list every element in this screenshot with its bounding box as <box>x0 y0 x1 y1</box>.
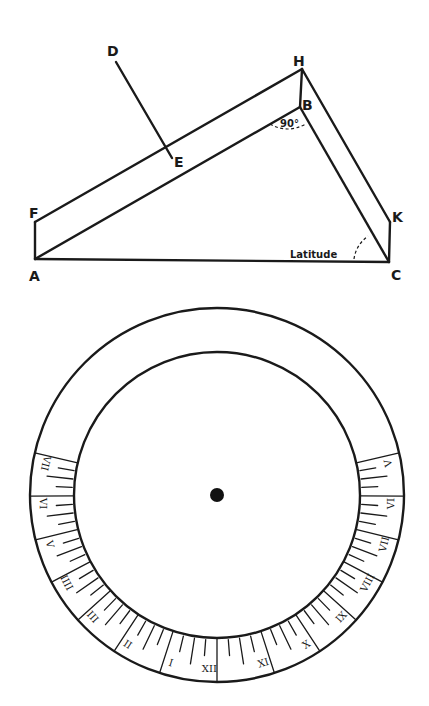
hour-line <box>35 529 78 540</box>
quarter-tick <box>362 504 378 505</box>
quarter-tick <box>63 538 78 543</box>
edge-b-c <box>300 107 389 262</box>
quarter-tick <box>79 570 93 578</box>
quarter-tick <box>360 521 376 524</box>
edge-f-h <box>35 69 302 222</box>
quarter-tick <box>349 555 364 562</box>
hour-label: VII <box>39 454 53 472</box>
edge-h-k <box>302 69 390 222</box>
line-d-e <box>116 62 172 158</box>
label-c: C <box>391 267 401 283</box>
hour-label: V <box>44 538 57 549</box>
quarter-tick <box>280 626 291 649</box>
quarter-tick <box>105 605 122 625</box>
hour-label: XI <box>256 656 270 670</box>
quarter-tick <box>341 570 355 578</box>
quarter-tick <box>57 547 81 556</box>
label-b: B <box>302 97 313 113</box>
quarter-tick <box>361 513 387 516</box>
hour-scale-ticks <box>30 453 404 682</box>
hour-label: IX <box>333 608 349 624</box>
quarter-tick <box>70 555 85 562</box>
label-latitude: Latitude <box>290 249 337 260</box>
quarter-tick <box>228 640 229 656</box>
hour-label: VI <box>38 497 49 509</box>
quarter-tick <box>336 578 357 593</box>
hour-label: V <box>382 458 395 469</box>
quarter-tick <box>362 487 378 488</box>
label-h: H <box>293 53 305 69</box>
quarter-tick <box>47 476 73 479</box>
hour-label: VIII <box>358 572 377 595</box>
quarter-tick <box>353 547 377 556</box>
quarter-tick <box>288 621 296 635</box>
quarter-tick <box>59 521 75 524</box>
quarter-tick <box>138 621 146 635</box>
quarter-tick <box>56 487 72 488</box>
quarter-tick <box>304 611 314 624</box>
edge-a-b <box>35 107 300 259</box>
quarter-tick <box>331 585 344 595</box>
quarter-tick <box>180 636 184 652</box>
quarter-tick <box>318 599 329 610</box>
gnomon-triangle: D E F A H B K C 90° Latitude <box>29 43 404 284</box>
quarter-tick <box>190 638 194 664</box>
hour-label: X <box>300 637 313 651</box>
quarter-tick <box>91 585 104 595</box>
hour-line <box>356 529 399 540</box>
quarter-tick <box>143 626 154 649</box>
quarter-tick <box>58 468 74 471</box>
hour-label: VI <box>385 498 396 510</box>
quarter-tick <box>271 630 277 645</box>
quarter-tick <box>360 468 376 471</box>
quarter-tick <box>204 640 205 656</box>
label-a: A <box>29 268 40 284</box>
quarter-tick <box>355 538 370 543</box>
quarter-tick <box>56 504 72 505</box>
quarter-tick <box>104 599 115 610</box>
quarter-tick <box>312 605 329 625</box>
hour-label: II <box>121 638 134 652</box>
latitude-arc <box>354 236 368 259</box>
quarter-tick <box>240 638 244 664</box>
quarter-tick <box>361 476 387 479</box>
quarter-tick <box>157 630 163 645</box>
quarter-tick <box>77 578 98 593</box>
label-d: D <box>107 43 119 59</box>
hour-label: XII <box>202 663 217 674</box>
edge-k-c <box>389 222 390 262</box>
label-90-degrees: 90° <box>280 118 299 129</box>
hour-label: VII <box>377 535 392 553</box>
quarter-tick <box>251 636 255 652</box>
label-k: K <box>392 209 404 225</box>
quarter-tick <box>47 513 73 516</box>
quarter-tick <box>120 611 130 624</box>
hour-label: I <box>167 657 174 669</box>
label-f: F <box>29 205 39 221</box>
hour-label: IIII <box>58 573 75 592</box>
dial-center-dot <box>210 488 224 502</box>
sundial-diagram: D E F A H B K C 90° Latitude VIIVIVIIIII… <box>0 0 429 706</box>
dial-face: VIIVIVIIIIIIIIIIXIIXIXIXVIIIVIIVIV <box>30 308 404 682</box>
label-e: E <box>174 154 184 170</box>
